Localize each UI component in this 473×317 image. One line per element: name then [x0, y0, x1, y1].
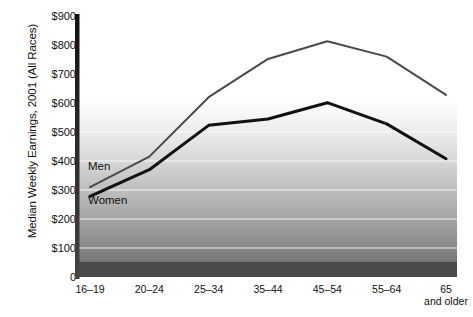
- x-tick-label: 65and older: [406, 283, 473, 307]
- x-tick-label-line2: and older: [406, 295, 473, 307]
- series-label-men: Men: [88, 160, 110, 172]
- series-label-women: Women: [88, 194, 127, 206]
